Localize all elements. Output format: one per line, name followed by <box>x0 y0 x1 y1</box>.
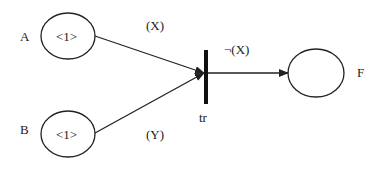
transition-tr <box>204 50 208 104</box>
arc-label-X: (X) <box>146 19 164 32</box>
transition-label-tr: tr <box>199 111 207 124</box>
place-label-F: F <box>357 66 364 79</box>
arc-label-Y: (Y) <box>146 128 164 141</box>
place-label-A: A <box>20 30 29 43</box>
arc-B-tr <box>95 73 204 133</box>
arc-A-tr <box>95 36 204 73</box>
petri-net-diagram: A <1> B <1> F tr (X) (Y) ¬(X) <box>0 0 382 170</box>
arc-label-not-X: ¬(X) <box>224 43 249 56</box>
place-F <box>288 49 344 97</box>
token-A: <1> <box>56 30 77 43</box>
place-label-B: B <box>20 123 29 136</box>
diagram-graphics <box>0 0 382 170</box>
token-B: <1> <box>56 128 77 141</box>
